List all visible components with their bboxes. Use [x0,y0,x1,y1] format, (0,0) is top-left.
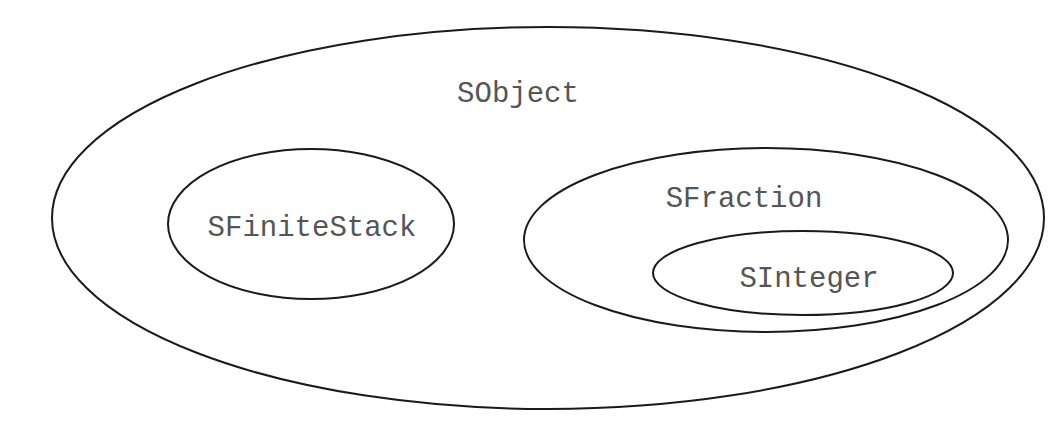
euler-diagram: SObject SFiniteStack SFraction SInteger [0,0,1063,435]
set-sobject: SObject [52,27,1044,409]
set-sinteger: SInteger [653,231,953,315]
set-sinteger-label: SInteger [739,263,878,296]
set-sfraction: SFraction [524,148,1008,332]
set-sfraction-label: SFraction [666,183,823,216]
set-sfinitestack: SFiniteStack [168,149,454,299]
set-sfinitestack-label: SFiniteStack [208,212,417,245]
set-sobject-label: SObject [457,78,579,111]
set-sfraction-outline [524,148,1008,332]
